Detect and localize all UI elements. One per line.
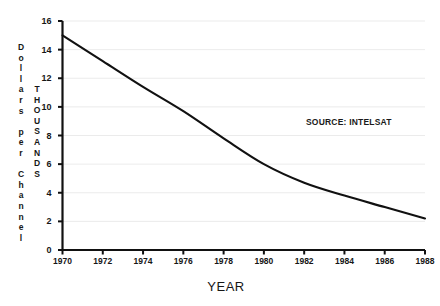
x-tick-label: 1980 bbox=[247, 256, 281, 266]
line-chart: Dollars per Channel THOUSANDS 0246810121… bbox=[0, 0, 440, 306]
x-tick-label: 1976 bbox=[166, 256, 200, 266]
y-tick-label: 4 bbox=[32, 188, 52, 198]
vertical-title-char: l bbox=[14, 74, 28, 85]
vertical-title-char: n bbox=[14, 212, 28, 223]
y-tick-label: 2 bbox=[32, 216, 52, 226]
x-tick-label: 1972 bbox=[86, 256, 120, 266]
x-tick-label: 1978 bbox=[207, 256, 241, 266]
vertical-title-char bbox=[14, 159, 28, 170]
axis-ticks bbox=[58, 21, 425, 255]
vertical-title-char bbox=[14, 116, 28, 127]
vertical-title-char: S bbox=[30, 169, 44, 180]
x-tick-label: 1982 bbox=[287, 256, 321, 266]
vertical-title-char: C bbox=[14, 169, 28, 180]
vertical-title-char: e bbox=[14, 222, 28, 233]
x-tick-label: 1986 bbox=[368, 256, 402, 266]
vertical-title-char: l bbox=[14, 63, 28, 74]
source-annotation: SOURCE: INTELSAT bbox=[306, 117, 392, 127]
vertical-title-char: r bbox=[14, 95, 28, 106]
gridlines bbox=[63, 21, 426, 250]
y-tick-label: 6 bbox=[32, 159, 52, 169]
vertical-title-char: a bbox=[14, 84, 28, 95]
vertical-title-char: r bbox=[14, 148, 28, 159]
vertical-title-char: h bbox=[14, 180, 28, 191]
x-tick-label: 1984 bbox=[327, 256, 361, 266]
vertical-title-char: U bbox=[30, 116, 44, 127]
x-tick-label: 1988 bbox=[408, 256, 440, 266]
x-axis-title-text: YEAR bbox=[207, 279, 244, 294]
vertical-title-char: n bbox=[14, 201, 28, 212]
vertical-title-char: a bbox=[14, 190, 28, 201]
x-tick-label: 1970 bbox=[46, 256, 80, 266]
x-tick-label: 1974 bbox=[126, 256, 160, 266]
y-tick-label: 12 bbox=[32, 73, 52, 83]
y-tick-label: 8 bbox=[32, 131, 52, 141]
vertical-title-char: l bbox=[14, 233, 28, 244]
x-axis-title: YEAR bbox=[0, 279, 440, 294]
vertical-title-char: p bbox=[14, 127, 28, 138]
vertical-title-char: D bbox=[14, 42, 28, 53]
y-tick-label: 10 bbox=[32, 102, 52, 112]
vertical-title-char: T bbox=[30, 84, 44, 95]
y-axis-title-primary: Dollars per Channel bbox=[14, 42, 28, 243]
vertical-title-char: e bbox=[14, 137, 28, 148]
vertical-title-char: N bbox=[30, 148, 44, 159]
y-tick-label: 14 bbox=[32, 45, 52, 55]
vertical-title-char: s bbox=[14, 106, 28, 117]
y-tick-label: 0 bbox=[32, 245, 52, 255]
vertical-title-char: o bbox=[14, 53, 28, 64]
y-tick-label: 16 bbox=[32, 16, 52, 26]
